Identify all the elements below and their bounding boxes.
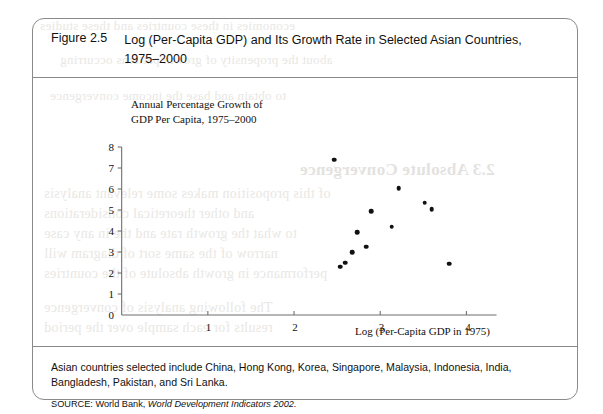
scatter-point	[355, 230, 360, 235]
scatter-point	[343, 260, 348, 265]
figure-footer: Asian countries selected include China, …	[33, 346, 577, 399]
figure-title: Log (Per-Capita GDP) and Its Growth Rate…	[124, 31, 544, 69]
y-tick-label: 3	[109, 246, 115, 258]
y-tick-label: 8	[109, 141, 115, 153]
scatter-point	[422, 200, 427, 205]
y-tick-label: 6	[109, 183, 115, 195]
y-tick-label: 0	[109, 309, 115, 321]
y-tick-label: 7	[109, 162, 115, 174]
figure-number: Figure 2.5	[51, 31, 107, 69]
figure-container: Figure 2.5 Log (Per-Capita GDP) and Its …	[32, 18, 578, 400]
figure-header: Figure 2.5 Log (Per-Capita GDP) and Its …	[33, 19, 577, 77]
y-tick-label: 1	[109, 288, 115, 300]
scatter-point	[364, 244, 369, 249]
figure-note: Asian countries selected include China, …	[51, 360, 559, 391]
source-title: World Development Indicators 2002.	[148, 399, 297, 409]
scatter-point	[397, 186, 402, 191]
scatter-point	[447, 261, 452, 266]
y-tick-label: 4	[109, 225, 115, 237]
scatter-point	[338, 264, 343, 269]
y-tick-label: 2	[109, 267, 115, 279]
chart-axes-svg	[33, 77, 577, 346]
scatter-point	[350, 250, 355, 255]
x-tick-label: 1	[206, 321, 212, 333]
scatter-point	[332, 157, 337, 162]
scatter-point	[369, 209, 374, 214]
chart-plot-area: Annual Percentage Growth ofGDP Per Capit…	[33, 77, 577, 346]
x-tick-label: 2	[292, 321, 298, 333]
scatter-point	[429, 207, 434, 212]
figure-source: SOURCE: World Bank, World Development In…	[51, 399, 559, 409]
y-tick-label: 5	[109, 204, 115, 216]
scatter-point	[390, 225, 395, 230]
source-prefix: SOURCE: World Bank,	[51, 399, 148, 409]
x-axis-label: Log (Per-Capita GDP in 1975)	[355, 325, 490, 337]
